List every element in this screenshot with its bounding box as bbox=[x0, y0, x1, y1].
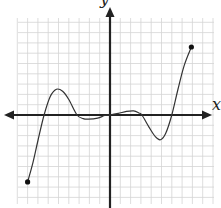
x-axis-label: x bbox=[212, 95, 221, 114]
x-axis-arrow-left-icon bbox=[4, 111, 14, 120]
grid-lines bbox=[17, 18, 214, 204]
x-axis-arrow-right-icon bbox=[202, 111, 212, 120]
y-axis-label: y bbox=[99, 0, 110, 8]
endpoint-dot bbox=[189, 44, 194, 49]
y-axis-arrow-up-icon bbox=[106, 7, 115, 17]
function-graph: x y bbox=[0, 0, 221, 208]
endpoint-dot bbox=[25, 179, 30, 184]
